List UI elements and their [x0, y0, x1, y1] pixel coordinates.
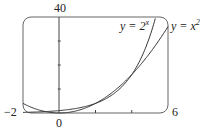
series-label-x-squared: y = x2 — [171, 19, 200, 32]
series-label-2-to-x: y = 2x — [120, 19, 149, 32]
axis-ticks — [58, 41, 132, 113]
series-label-base: y = x — [171, 19, 196, 33]
x-max-label: 6 — [172, 106, 178, 118]
x-min-label: −2 — [4, 106, 17, 118]
curve-x-squared — [23, 27, 168, 113]
series-label-exponent: x — [145, 18, 149, 27]
origin-label: 0 — [56, 117, 62, 129]
series-label-base: y = 2 — [120, 19, 145, 33]
y-max-label: 40 — [54, 2, 66, 14]
series-label-exponent: 2 — [196, 18, 200, 27]
